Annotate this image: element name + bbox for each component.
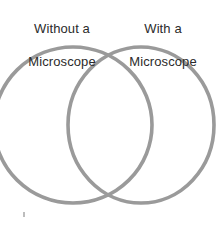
venn-label-left-line2: Microscope xyxy=(4,54,120,71)
venn-label-left-line1: Without a xyxy=(4,21,120,38)
stray-dot-mark xyxy=(23,212,25,217)
venn-label-left: Without a Microscope xyxy=(4,4,120,87)
venn-label-right-line2: Microscope xyxy=(108,54,218,71)
venn-label-right-line1: With a xyxy=(108,21,218,38)
venn-diagram-figure: Without a Microscope With a Microscope xyxy=(0,0,221,226)
venn-label-right: With a Microscope xyxy=(108,4,218,87)
